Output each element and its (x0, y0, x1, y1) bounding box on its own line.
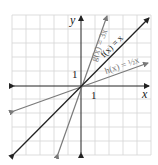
y-tick-label: 1 (72, 68, 78, 80)
x-tick-label: 1 (91, 89, 97, 101)
axes (14, 16, 149, 153)
x-axis-label: x (141, 87, 148, 101)
y-axis-label: y (69, 13, 76, 27)
coordinate-graph: y x 1 1 g(x) = 3x f(x) = x h(x) = ½x (0, 0, 158, 165)
